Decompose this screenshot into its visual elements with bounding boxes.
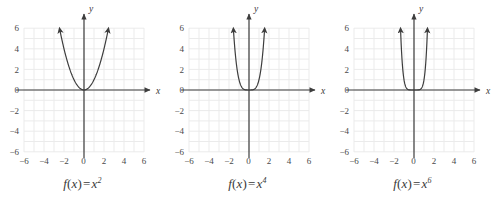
x-tick-label: 4 bbox=[287, 156, 292, 166]
x-tick-label: −4 bbox=[39, 156, 49, 166]
caption-x-fourth: f(x)=x4 bbox=[165, 176, 330, 192]
coordinate-plane-x-sixth: −6−4−20246642−2−4−60 xy bbox=[330, 0, 495, 175]
caption-exponent: 4 bbox=[263, 176, 267, 185]
origin-label: 0 bbox=[180, 85, 185, 95]
y-tick-label: 2 bbox=[15, 65, 20, 75]
x-tick-label: 6 bbox=[472, 156, 477, 166]
y-tick-label: −4 bbox=[339, 126, 349, 136]
x-tick-label: 0 bbox=[246, 156, 251, 166]
x-tick-label: −6 bbox=[184, 156, 194, 166]
origin-label: 0 bbox=[345, 85, 350, 95]
plot-area-x-squared: −6−4−20246642−2−4−60 xy bbox=[0, 0, 165, 175]
plot-area-x-fourth: −6−4−20246642−2−4−60 xy bbox=[165, 0, 330, 175]
three-graph-figure: −6−4−20246642−2−4−60 xy f(x)=x2 −6−4−202… bbox=[0, 0, 495, 205]
x-tick-label: −2 bbox=[59, 156, 69, 166]
y-tick-label: −2 bbox=[174, 106, 184, 116]
caption-equals: = bbox=[82, 176, 92, 191]
y-tick-label: 4 bbox=[15, 44, 20, 54]
axes bbox=[181, 14, 315, 158]
x-tick-label: −2 bbox=[389, 156, 399, 166]
x-tick-label: −4 bbox=[204, 156, 214, 166]
y-tick-label: 4 bbox=[180, 44, 185, 54]
y-tick-label: 6 bbox=[180, 23, 185, 33]
origin-label: 0 bbox=[15, 85, 20, 95]
x-tick-label: 2 bbox=[267, 156, 272, 166]
y-tick-label: 6 bbox=[15, 23, 20, 33]
y-tick-label: −2 bbox=[339, 106, 349, 116]
caption-exponent: 6 bbox=[428, 176, 432, 185]
x-tick-label: −6 bbox=[349, 156, 359, 166]
y-axis-label: y bbox=[88, 4, 94, 14]
y-tick-label: 2 bbox=[345, 65, 350, 75]
y-tick-label: 6 bbox=[345, 23, 350, 33]
x-tick-label: −6 bbox=[19, 156, 29, 166]
y-tick-label: 2 bbox=[180, 65, 185, 75]
graph-panel-x-sixth: −6−4−20246642−2−4−60 xy f(x)=x6 bbox=[330, 0, 495, 205]
x-tick-label: 4 bbox=[452, 156, 457, 166]
caption-x-squared: f(x)=x2 bbox=[0, 176, 165, 192]
axes bbox=[16, 14, 150, 158]
tick-labels: −6−4−20246642−2−4−60 bbox=[9, 23, 146, 166]
plot-area-x-sixth: −6−4−20246642−2−4−60 xy bbox=[330, 0, 495, 175]
x-tick-label: 4 bbox=[122, 156, 127, 166]
x-tick-label: 2 bbox=[102, 156, 107, 166]
x-tick-label: 0 bbox=[411, 156, 416, 166]
x-axis-label: x bbox=[155, 86, 161, 96]
caption-equals: = bbox=[412, 176, 422, 191]
x-axis-label: x bbox=[485, 86, 491, 96]
x-tick-label: −4 bbox=[369, 156, 379, 166]
x-axis-label: x bbox=[320, 86, 326, 96]
y-tick-label: −4 bbox=[174, 126, 184, 136]
caption-equals: = bbox=[247, 176, 257, 191]
y-tick-label: −6 bbox=[339, 147, 349, 157]
y-tick-label: −6 bbox=[9, 147, 19, 157]
x-tick-label: 6 bbox=[307, 156, 312, 166]
caption-exponent: 2 bbox=[98, 176, 102, 185]
x-tick-label: 0 bbox=[81, 156, 86, 166]
coordinate-plane-x-squared: −6−4−20246642−2−4−60 xy bbox=[0, 0, 165, 175]
y-tick-label: 4 bbox=[345, 44, 350, 54]
x-tick-label: −2 bbox=[224, 156, 234, 166]
tick-labels: −6−4−20246642−2−4−60 bbox=[174, 23, 311, 166]
y-tick-label: −4 bbox=[9, 126, 19, 136]
caption-x-sixth: f(x)=x6 bbox=[330, 176, 495, 192]
x-tick-label: 6 bbox=[142, 156, 147, 166]
y-axis-label: y bbox=[253, 4, 259, 14]
graph-panel-x-fourth: −6−4−20246642−2−4−60 xy f(x)=x4 bbox=[165, 0, 330, 205]
y-axis-label: y bbox=[418, 4, 424, 14]
axes bbox=[346, 14, 480, 158]
coordinate-plane-x-fourth: −6−4−20246642−2−4−60 xy bbox=[165, 0, 330, 175]
y-tick-label: −2 bbox=[9, 106, 19, 116]
tick-labels: −6−4−20246642−2−4−60 bbox=[339, 23, 476, 166]
x-tick-label: 2 bbox=[432, 156, 437, 166]
y-tick-label: −6 bbox=[174, 147, 184, 157]
graph-panel-x-squared: −6−4−20246642−2−4−60 xy f(x)=x2 bbox=[0, 0, 165, 205]
